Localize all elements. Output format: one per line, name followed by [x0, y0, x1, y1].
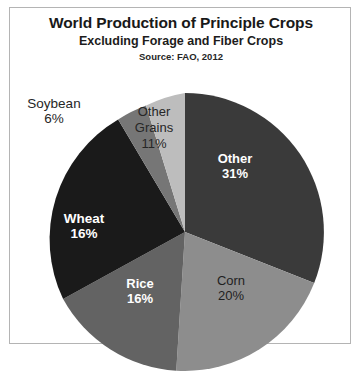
pie-label-other-grains-name-line2: Grains [122, 120, 186, 136]
pie-label-soybean-value: 6% [8, 111, 100, 126]
pie-label-other-value: 31% [198, 166, 272, 181]
pie-label-other-grains-name-line1: Other [122, 104, 186, 120]
pie-label-other-grains-value: 11% [122, 136, 186, 152]
pie-label-corn-value: 20% [196, 288, 266, 303]
pie-label-rice-name: Rice [108, 276, 172, 291]
pie-label-other-grains: Other Grains 11% [122, 104, 186, 152]
pie-label-corn-name: Corn [196, 273, 266, 288]
pie-label-wheat: Wheat 16% [48, 211, 120, 241]
pie-label-soybean-name: Soybean [8, 96, 100, 111]
pie-label-wheat-value: 16% [48, 226, 120, 241]
pie-label-soybean: Soybean 6% [8, 96, 100, 126]
pie-chart: Other 31% Corn 20% Rice 16% Wheat 16% So… [0, 0, 362, 389]
pie-label-wheat-name: Wheat [48, 211, 120, 226]
pie-chart-svg [0, 0, 362, 389]
pie-label-other: Other 31% [198, 151, 272, 181]
pie-label-rice-value: 16% [108, 291, 172, 306]
pie-label-other-name: Other [198, 151, 272, 166]
pie-label-corn: Corn 20% [196, 273, 266, 303]
chart-page: World Production of Principle Crops Excl… [0, 0, 362, 389]
pie-label-rice: Rice 16% [108, 276, 172, 306]
